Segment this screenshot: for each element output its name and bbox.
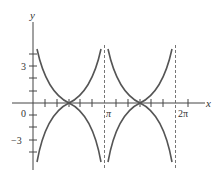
cot-graph: y x 0 π 2π 3 −3 xyxy=(0,0,217,174)
origin-label: 0 xyxy=(21,108,26,119)
y-tick-label-3: 3 xyxy=(21,61,26,72)
pi-label: π xyxy=(106,108,112,119)
x-axis-label: x xyxy=(205,97,211,109)
two-pi-label: 2π xyxy=(178,108,188,119)
y-axis-label: y xyxy=(29,9,35,21)
y-tick-label-neg3: −3 xyxy=(11,135,22,146)
